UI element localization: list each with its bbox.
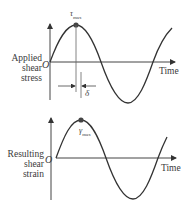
delta-label: δ bbox=[85, 88, 89, 98]
top-origin-label: O bbox=[42, 59, 49, 70]
gamma-max-point bbox=[78, 117, 83, 122]
applied-stress-curve bbox=[50, 25, 172, 103]
top-ylabel-line-1: Applied bbox=[2, 53, 42, 63]
bottom-ylabel: Resulting shear strain bbox=[0, 149, 44, 179]
top-ylabel-line-3: stress bbox=[2, 73, 42, 83]
bottom-origin-label: O bbox=[45, 154, 52, 165]
resulting-strain-curve bbox=[56, 120, 167, 199]
bottom-ylabel-line-3: strain bbox=[0, 169, 44, 179]
top-xlabel: Time bbox=[159, 66, 179, 76]
bottom-xlabel: Time bbox=[161, 163, 181, 173]
tau-max-label: τmax bbox=[70, 9, 81, 20]
bottom-ylabel-line-1: Resulting bbox=[0, 149, 44, 159]
top-ylabel-line-2: shear bbox=[2, 63, 42, 73]
gamma-subscript: max bbox=[82, 132, 91, 137]
top-plot bbox=[50, 22, 175, 103]
top-ylabel: Applied shear stress bbox=[2, 53, 42, 83]
bottom-ylabel-line-2: shear bbox=[0, 159, 44, 169]
bottom-plot bbox=[51, 117, 176, 200]
gamma-max-label: γmax bbox=[79, 126, 91, 137]
tau-subscript: max bbox=[73, 15, 82, 20]
